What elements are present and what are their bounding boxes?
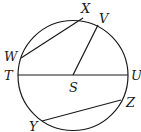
- label-w: W: [4, 49, 19, 64]
- label-v: V: [99, 11, 110, 26]
- circle-diagram: X V W T U S Z Y: [0, 0, 141, 132]
- chord-yz: [42, 100, 121, 121]
- label-t: T: [4, 68, 14, 83]
- radius-sv: [73, 25, 98, 75]
- label-z: Z: [125, 95, 136, 110]
- label-y: Y: [29, 119, 39, 132]
- label-x: X: [80, 1, 91, 16]
- chord-wx: [21, 18, 83, 58]
- label-u: U: [131, 68, 141, 83]
- label-s: S: [69, 80, 78, 95]
